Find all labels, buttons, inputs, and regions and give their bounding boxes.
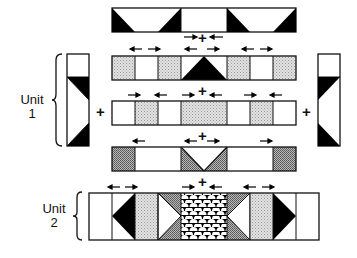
unit1-label-number: 1 (14, 107, 50, 121)
plus-sign: + (198, 83, 207, 98)
unit2-label: Unit 2 (36, 202, 72, 230)
plus-sign: + (198, 30, 207, 45)
unit1-brace (52, 54, 62, 146)
right-unit1-strip (318, 54, 340, 146)
unit1-row-c (112, 147, 296, 171)
unit2-brace (73, 192, 82, 240)
unit1-row-a (112, 56, 296, 80)
unit1-row-b (112, 101, 296, 125)
unit1-label: Unit 1 (14, 93, 50, 121)
plus-sign: + (96, 104, 105, 119)
unit1-label-text: Unit (14, 93, 50, 107)
unit2-label-text: Unit (36, 202, 72, 216)
unit2-row (89, 193, 319, 240)
arrows-unit2 (108, 185, 274, 189)
unit2-label-number: 2 (36, 216, 72, 230)
plus-sign: + (198, 174, 207, 189)
plus-sign: + (302, 104, 311, 119)
plus-sign: + (198, 128, 207, 143)
left-unit1-strip (67, 54, 89, 146)
